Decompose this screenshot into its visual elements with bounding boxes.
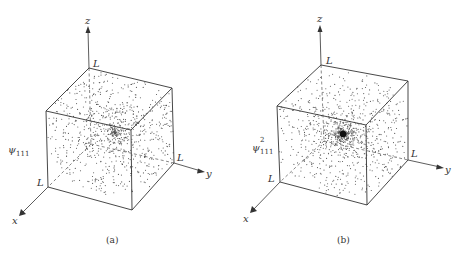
y-axis xyxy=(408,160,440,167)
z-arrow-icon xyxy=(86,26,91,33)
z-axis-label: z xyxy=(316,13,323,24)
panel-b-function-label: ψ 2 111 xyxy=(252,136,273,156)
psi-symbol: ψ xyxy=(8,144,16,155)
panel-a: z x y L L L ψ 111 (a) xyxy=(8,15,212,245)
z-axis-label: z xyxy=(84,15,91,26)
z-axis xyxy=(320,29,321,65)
z-axis xyxy=(88,30,89,68)
psi-subscript: 111 xyxy=(260,148,273,156)
y-corner-label: L xyxy=(410,148,418,159)
y-axis-label: y xyxy=(444,164,451,175)
z-corner-label: L xyxy=(325,55,333,66)
y-arrow-icon xyxy=(436,165,444,170)
panel-b-dots xyxy=(279,72,408,196)
y-corner-label: L xyxy=(176,152,184,163)
psi-subscript: 111 xyxy=(16,150,29,158)
x-corner-label: L xyxy=(267,173,275,184)
panel-a-function-label: ψ 111 xyxy=(8,144,29,158)
panel-a-cube xyxy=(46,68,174,210)
panel-b-hidden-edges xyxy=(280,65,408,182)
z-arrow-icon xyxy=(318,25,323,32)
y-arrow-icon xyxy=(197,169,205,174)
x-corner-label: L xyxy=(36,177,44,188)
panel-a-caption: (a) xyxy=(106,235,118,245)
x-axis xyxy=(253,182,280,210)
panel-b-axes xyxy=(250,25,444,213)
psi-symbol: ψ xyxy=(252,142,260,153)
figure: z x y L L L ψ 111 (a) xyxy=(0,0,462,258)
x-axis-label: x xyxy=(12,215,18,226)
panel-b: z x y L L L ψ 2 111 (b) xyxy=(243,13,451,245)
x-axis-label: x xyxy=(243,213,249,224)
x-axis xyxy=(22,187,48,213)
panel-a-axes xyxy=(19,26,205,216)
z-corner-label: L xyxy=(92,58,100,69)
y-axis xyxy=(174,163,201,171)
y-axis-label: y xyxy=(205,168,212,179)
panel-b-caption: (b) xyxy=(337,235,350,245)
psi-superscript: 2 xyxy=(260,136,264,144)
